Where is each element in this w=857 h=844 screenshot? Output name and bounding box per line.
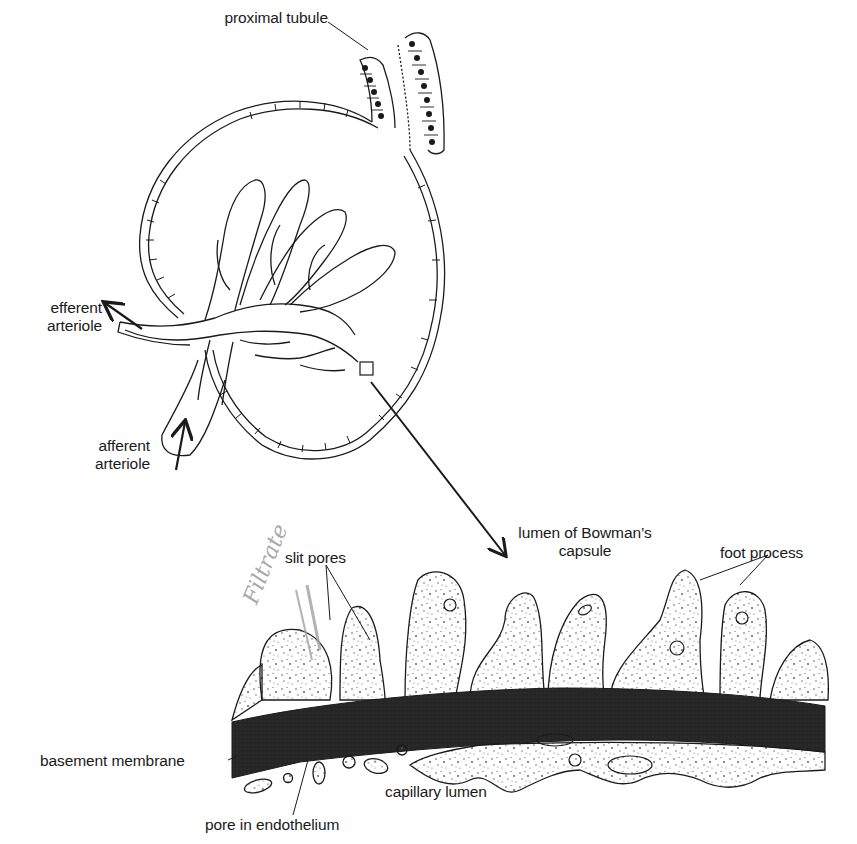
label-slit-pores: slit pores [285, 548, 346, 567]
afferent-arteriole-vessel [162, 360, 225, 456]
label-efferent-arteriole-line1: efferent [22, 298, 102, 317]
label-basement-membrane: basement membrane [40, 751, 185, 770]
renal-corpuscle-diagram [0, 0, 857, 844]
proximal-tubule-leader [328, 22, 368, 50]
glomerular-capillaries [120, 180, 395, 405]
efferent-flow-arrow [105, 303, 142, 329]
label-proximal-tubule: proximal tubule [200, 8, 328, 27]
label-capillary-lumen: capillary lumen [385, 782, 487, 801]
label-efferent-arteriole-line2: arteriole [22, 316, 102, 335]
label-afferent-arteriole-line1: afferent [70, 436, 150, 455]
label-afferent-arteriole-line2: arteriole [70, 454, 150, 473]
magnification-box [360, 362, 373, 375]
bowmans-capsule [140, 101, 445, 459]
magnification-pointer-arrow [371, 382, 505, 555]
label-foot-process: foot process [720, 543, 803, 562]
label-bowmans-lumen-line1: lumen of Bowman’s [505, 523, 665, 542]
proximal-tubule [360, 33, 444, 154]
afferent-flow-arrow [176, 422, 185, 470]
label-pore-in-endothelium: pore in endothelium [205, 815, 339, 834]
label-bowmans-lumen-line2: capsule [505, 541, 665, 560]
